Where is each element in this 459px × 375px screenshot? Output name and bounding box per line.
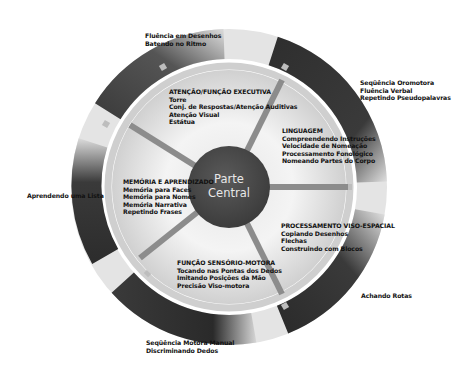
domain-memory: MEMÓRIA E APRENDIZADO Memória para Faces…: [123, 178, 214, 216]
domain-language: LINGUAGEM Compreendendo Instruções Veloc…: [282, 127, 376, 165]
domain-sensorimotor: FUNÇÃO SENSÓRIO-MOTORA Tocando nas Ponta…: [177, 259, 282, 289]
outer-item: Aprendendo uma Lista: [27, 192, 104, 200]
domain-visuospatial: PROCESSAMENTO VISO-ESPACIAL Copiando Des…: [281, 222, 395, 252]
domain-item: Memória para Faces: [123, 186, 214, 194]
domain-item: Imitando Posições da Mão: [177, 274, 282, 282]
outer-item: Seqüência Motora Manual: [146, 339, 234, 347]
outer-label-bottom-right: Achando Rotas: [361, 292, 412, 300]
domain-item: Precisão Viso-motora: [177, 282, 282, 290]
domain-item: Memória Narrativa: [123, 201, 214, 209]
domain-item: Flechas: [281, 237, 395, 245]
outer-item: Fluência em Desenhos: [145, 32, 221, 40]
domain-title: ATENÇÃO/FUNÇÃO EXECUTIVA: [169, 88, 297, 96]
outer-label-bottom-left: Seqüência Motora Manual Discriminando De…: [146, 339, 234, 354]
outer-item: Batendo no Ritmo: [145, 40, 221, 48]
outer-item: Repetindo Pseudopalavras: [360, 94, 451, 102]
domain-item: Memória para Nomes: [123, 193, 214, 201]
outer-item: Discriminando Dedos: [146, 347, 234, 355]
domain-item: Velocidade de Nomeação: [282, 142, 376, 150]
domain-item: Tocando nas Pontas dos Dedos: [177, 267, 282, 275]
outer-label-top-right: Seqüência Oromotora Fluência Verbal Repe…: [360, 79, 451, 102]
domain-title: FUNÇÃO SENSÓRIO-MOTORA: [177, 259, 282, 267]
domain-item: Compreendendo Instruções: [282, 135, 376, 143]
domain-item: Processamento Fonológico: [282, 150, 376, 158]
outer-label-left: Aprendendo uma Lista: [27, 192, 104, 200]
domain-item: Estátua: [169, 118, 297, 126]
domain-title: LINGUAGEM: [282, 127, 376, 135]
outer-item: Seqüência Oromotora: [360, 79, 451, 87]
domain-item: Nomeando Partes do Corpo: [282, 157, 376, 165]
domain-title: PROCESSAMENTO VISO-ESPACIAL: [281, 222, 395, 230]
outer-label-top-left: Fluência em Desenhos Batendo no Ritmo: [145, 32, 221, 47]
outer-item: Fluência Verbal: [360, 87, 451, 95]
domain-item: Conj. de Respostas/Atenção Auditivas: [169, 103, 297, 111]
domain-title: MEMÓRIA E APRENDIZADO: [123, 178, 214, 186]
domain-item: Torre: [169, 96, 297, 104]
domain-attention: ATENÇÃO/FUNÇÃO EXECUTIVA Torre Conj. de …: [169, 88, 297, 126]
domain-item: Atenção Visual: [169, 111, 297, 119]
domain-item: Construindo com Blocos: [281, 245, 395, 253]
outer-item: Achando Rotas: [361, 292, 412, 300]
domain-item: Repetindo Frases: [123, 208, 214, 216]
domain-item: Copiando Desenhos: [281, 230, 395, 238]
